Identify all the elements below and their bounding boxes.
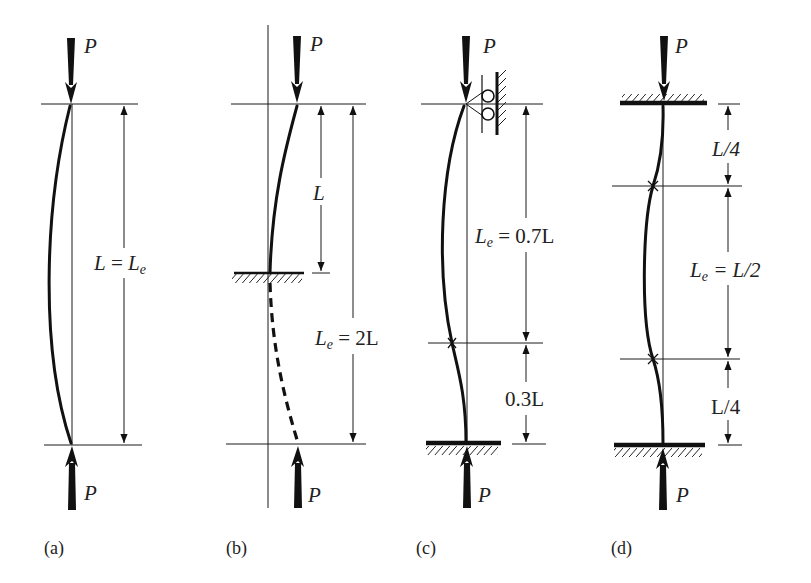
fixed-support-top <box>620 94 707 103</box>
load-label-bottom: P <box>477 483 491 507</box>
column-buckling-diagram: P L = Le P (a) P <box>0 0 811 583</box>
buckled-column <box>644 106 663 443</box>
panel-b: P L Le = 2L P (b) <box>226 25 379 559</box>
effective-length-label: L = Le <box>93 251 146 277</box>
load-label-top: P <box>674 34 688 58</box>
fixed-support <box>232 273 304 283</box>
panel-a: P L = Le P (a) <box>41 34 146 559</box>
panel-caption: (a) <box>44 538 64 559</box>
length-label: L <box>312 181 325 205</box>
top-segment-label: L/4 <box>711 137 741 161</box>
effective-length-label: Le = L/2 <box>689 258 761 284</box>
load-label-top: P <box>83 34 97 58</box>
panel-caption: (b) <box>226 538 247 559</box>
bottom-segment-label: L/4 <box>711 395 741 419</box>
panel-caption: (d) <box>611 538 632 559</box>
load-label-bottom: P <box>83 481 97 505</box>
load-label-bottom: P <box>675 483 689 507</box>
panel-d: P L/4 Le = L/2 L/4 <box>611 34 761 559</box>
panel-caption: (c) <box>416 538 436 559</box>
load-label-top: P <box>482 34 496 58</box>
buckled-column <box>49 106 71 443</box>
fixed-support-bottom <box>614 445 705 457</box>
load-arrow-bottom <box>291 446 304 508</box>
buckled-column <box>270 106 297 273</box>
load-label-bottom: P <box>307 483 321 507</box>
load-arrow-bottom <box>656 448 669 510</box>
load-arrow-bottom <box>460 446 473 508</box>
fixed-support <box>426 443 501 455</box>
effective-length-label: Le = 0.7L <box>474 224 554 250</box>
buckled-column <box>442 106 466 443</box>
panel-c: P <box>416 34 554 559</box>
mirrored-column-dashed <box>270 283 298 443</box>
effective-length-label: Le = 2L <box>314 326 379 352</box>
load-arrow-top <box>291 36 303 103</box>
remainder-length-label: 0.3L <box>505 387 544 411</box>
load-arrow-top <box>65 38 77 104</box>
load-label-top: P <box>309 32 323 56</box>
load-arrow-bottom <box>65 446 78 510</box>
roller-support <box>466 70 506 135</box>
load-arrow-top <box>460 36 472 103</box>
load-arrow-top <box>658 36 670 101</box>
